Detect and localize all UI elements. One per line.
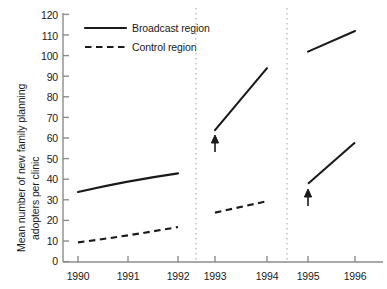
broadcast-segment-1990-1992 xyxy=(78,173,178,192)
arrow-up-icon-1995 xyxy=(304,189,311,206)
series-control-region xyxy=(78,143,355,243)
series-broadcast-region xyxy=(78,31,355,192)
broadcast-segment-1993-1994 xyxy=(215,68,267,130)
broadcast-segment-1995-1996 xyxy=(308,31,355,52)
annotation-arrows xyxy=(211,135,311,206)
control-segment-1993-1994 xyxy=(215,201,267,212)
chart-figure: Mean number of new family planning adopt… xyxy=(0,0,387,289)
arrow-up-icon-1993 xyxy=(211,135,218,152)
control-segment-1995-1996 xyxy=(308,143,355,184)
y-axis-ticks xyxy=(63,14,69,261)
legend xyxy=(85,28,126,47)
chart-canvas xyxy=(0,0,387,289)
control-segment-1990-1992 xyxy=(78,227,178,242)
x-axis-ticks xyxy=(78,256,355,262)
